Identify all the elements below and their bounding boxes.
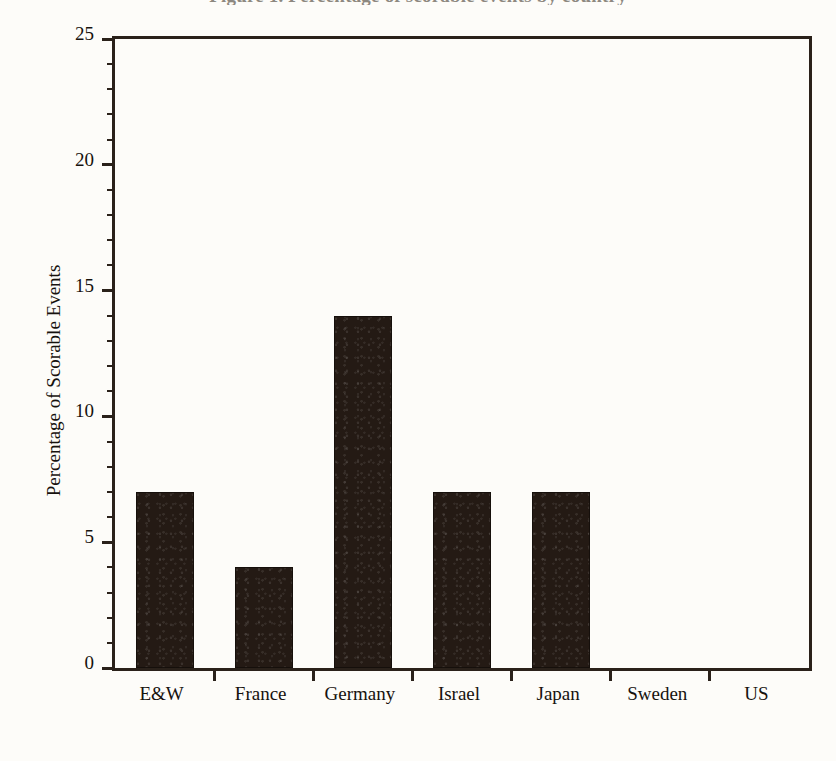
y-axis-tick-label: 20 — [24, 149, 94, 171]
y-axis-minor-tick — [107, 139, 115, 141]
y-axis-major-tick — [102, 289, 115, 292]
y-axis-minor-tick — [107, 315, 115, 317]
y-axis-minor-tick — [107, 340, 115, 342]
y-axis-minor-tick — [107, 642, 115, 644]
y-axis-minor-tick — [107, 491, 115, 493]
x-axis-tick — [213, 668, 216, 681]
y-axis-major-tick — [102, 163, 115, 166]
x-axis-tick — [411, 668, 414, 681]
y-axis-minor-tick — [107, 466, 115, 468]
x-axis-category-label: Japan — [509, 683, 608, 705]
y-axis-minor-tick — [107, 214, 115, 216]
x-axis-tick — [510, 668, 513, 681]
y-axis-minor-tick — [107, 592, 115, 594]
y-axis-tick-label: 15 — [24, 275, 94, 297]
y-axis-minor-tick — [107, 441, 115, 443]
y-axis-major-tick — [102, 415, 115, 418]
y-axis-minor-tick — [107, 390, 115, 392]
y-axis-major-tick — [102, 38, 115, 41]
bar — [532, 492, 590, 668]
y-axis-minor-tick — [107, 239, 115, 241]
y-axis-minor-tick — [107, 189, 115, 191]
y-axis-minor-tick — [107, 264, 115, 266]
x-axis-category-label: Sweden — [608, 683, 707, 705]
bar — [136, 492, 194, 668]
y-axis-tick-label: 25 — [24, 23, 94, 45]
plot-area — [112, 36, 812, 671]
y-axis-tick-label: 5 — [24, 526, 94, 548]
x-axis-category-label: Germany — [310, 683, 409, 705]
y-axis-title: Percentage of Scorable Events — [36, 0, 72, 761]
x-axis-tick — [609, 668, 612, 681]
bar-chart-figure: Figure 1. Percentage of scorable events … — [0, 0, 836, 761]
y-axis-minor-tick — [107, 63, 115, 65]
y-axis-minor-tick — [107, 113, 115, 115]
x-axis-category-label: France — [211, 683, 310, 705]
y-axis-minor-tick — [107, 88, 115, 90]
bar — [235, 567, 293, 668]
y-axis-minor-tick — [107, 617, 115, 619]
y-axis-minor-tick — [107, 365, 115, 367]
y-axis-tick-label: 0 — [24, 652, 94, 674]
x-axis-category-label: Israel — [409, 683, 508, 705]
y-axis-minor-tick — [107, 516, 115, 518]
x-axis-tick — [312, 668, 315, 681]
x-axis-category-label: US — [707, 683, 806, 705]
y-axis-major-tick — [102, 667, 115, 670]
figure-title-clipped: Figure 1. Percentage of scorable events … — [0, 0, 836, 5]
bar — [433, 492, 491, 668]
x-axis-tick — [708, 668, 711, 681]
y-axis-minor-tick — [107, 566, 115, 568]
y-axis-major-tick — [102, 541, 115, 544]
bar — [334, 316, 392, 668]
x-axis-category-label: E&W — [112, 683, 211, 705]
y-axis-tick-label: 10 — [24, 400, 94, 422]
